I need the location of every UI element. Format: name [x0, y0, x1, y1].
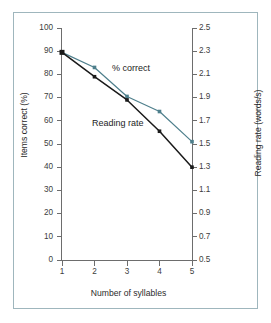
data-point-marker [125, 98, 129, 102]
data-point-marker [60, 50, 65, 55]
y-axis-left-title: Items correct (%) [19, 92, 29, 157]
series-label-reading-rate: Reading rate [92, 118, 144, 128]
x-axis-title: Number of syllables [66, 288, 191, 298]
chart-figure: 0102030405060708090100 0.50.70.91.11.31.… [0, 0, 271, 323]
y-axis-right-title: Reading rate (words/s) [253, 90, 263, 177]
data-point-marker [190, 165, 194, 169]
data-point-marker [125, 95, 129, 99]
data-point-marker [158, 129, 162, 133]
data-point-marker [93, 75, 97, 79]
data-point-marker [190, 140, 194, 144]
chart-plot-lines [0, 0, 271, 323]
data-point-marker [93, 66, 97, 70]
data-point-marker [158, 110, 162, 114]
series-label-percent-correct: % correct [112, 63, 150, 73]
